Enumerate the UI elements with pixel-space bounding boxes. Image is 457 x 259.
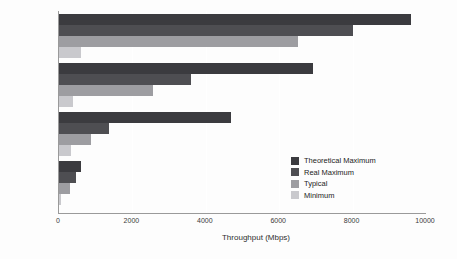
legend-label: Real Maximum [304,168,354,177]
legend-label: Minimum [304,191,334,200]
bar-group [59,14,426,58]
bar [59,74,191,85]
x-tick-label: 6000 [270,217,286,224]
bar [59,47,81,58]
bar-group [59,63,426,107]
x-tick-label: 0 [56,217,60,224]
chart-legend: Theoretical MaximumReal MaximumTypicalMi… [291,155,376,201]
x-tick-label: 4000 [197,217,213,224]
legend-item[interactable]: Typical [291,178,376,190]
bar [59,25,353,36]
bar [59,172,76,183]
legend-swatch-icon [291,168,299,176]
x-tick-label: 2000 [124,217,140,224]
bar-group [59,112,426,156]
legend-item[interactable]: Real Maximum [291,167,376,179]
legend-label: Typical [304,179,327,188]
bar [59,96,73,107]
legend-swatch-icon [291,157,299,165]
bar [59,36,298,47]
bar [59,161,81,172]
bar [59,63,313,74]
bar [59,85,153,96]
bar [59,112,231,123]
legend-label: Theoretical Maximum [304,156,376,165]
bar [59,183,70,194]
throughput-bar-chart: 802.11ax802.11ac (Wave 2)802.11ac (Wave … [0,0,457,259]
legend-item[interactable]: Minimum [291,190,376,202]
bar [59,194,61,205]
bar [59,145,71,156]
bar [59,123,109,134]
bar [59,134,91,145]
legend-item[interactable]: Theoretical Maximum [291,155,376,167]
x-axis-title-text: Throughput (Mbps) [222,233,290,242]
x-axis-title: Throughput (Mbps) [0,233,457,242]
legend-swatch-icon [291,191,299,199]
bar [59,14,411,25]
x-tick-label: 8000 [344,217,360,224]
x-tick-label: 10000 [415,217,434,224]
legend-swatch-icon [291,180,299,188]
